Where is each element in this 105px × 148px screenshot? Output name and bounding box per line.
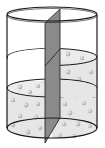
osmosis-container-diagram: [0, 0, 105, 148]
